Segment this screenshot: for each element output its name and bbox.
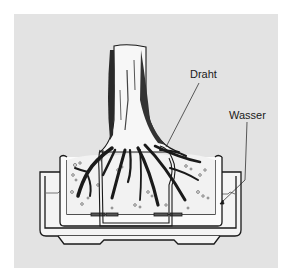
wire-label: Draht (190, 69, 217, 80)
water-label: Wasser (229, 110, 266, 121)
bonsai-illustration (0, 0, 285, 274)
tree-trunk (100, 45, 180, 152)
